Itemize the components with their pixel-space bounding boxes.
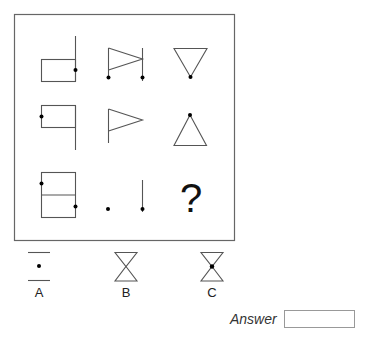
option-b-figure[interactable] [115, 253, 137, 282]
cell-1-1-figure [42, 36, 78, 82]
puzzle-figure [0, 0, 378, 347]
option-c-label[interactable]: C [202, 285, 222, 300]
option-a-label[interactable]: A [29, 285, 49, 300]
option-c-figure[interactable] [201, 253, 223, 282]
cell-2-2-figure [109, 109, 143, 143]
missing-cell-question-mark: ? [176, 176, 206, 220]
cell-2-1-figure [40, 106, 76, 151]
cell-2-3-figure [174, 113, 207, 146]
cell-3-2-figure [106, 180, 145, 212]
answer-label: Answer [230, 311, 277, 327]
cell-1-2-figure [107, 48, 145, 81]
option-a-figure[interactable] [28, 253, 50, 281]
option-b-label[interactable]: B [116, 285, 136, 300]
cell-3-1-figure [40, 173, 78, 218]
answer-input[interactable] [284, 310, 355, 328]
cell-1-3-figure [174, 49, 207, 80]
puzzle-stage: ? A B C Answer [0, 0, 378, 347]
